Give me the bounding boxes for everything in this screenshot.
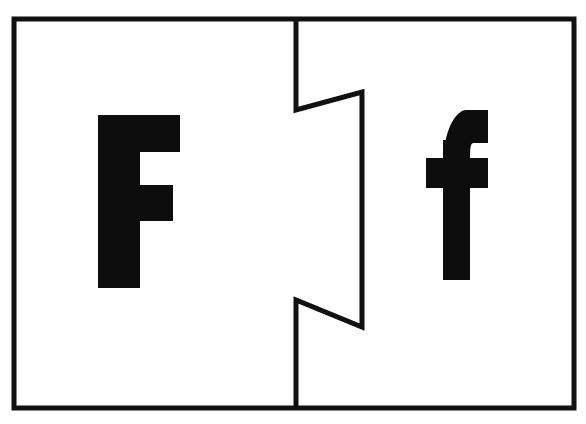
lowercase-f-crossbar [426, 158, 488, 188]
card-background [0, 0, 586, 424]
flashcard-stage: F f [0, 0, 586, 424]
alphabet-puzzle-card: F f [0, 0, 586, 424]
